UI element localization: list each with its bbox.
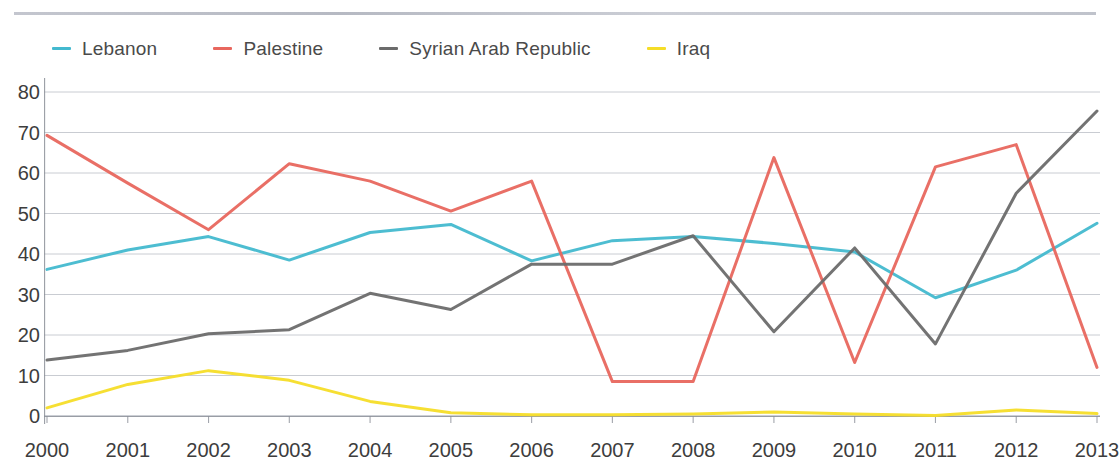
chart-svg [44, 78, 1100, 430]
x-axis-tick-label-2000: 2000 [25, 440, 70, 460]
x-axis-tick-label-2005: 2005 [429, 440, 474, 460]
series-line-syrian-arab-republic[interactable] [47, 111, 1097, 360]
chart-legend: LebanonPalestineSyrian Arab RepublicIraq [52, 36, 766, 60]
y-axis-tick-label-50: 50 [2, 204, 40, 224]
y-axis-tick-label-60: 60 [2, 163, 40, 183]
y-axis-tick-label-20: 20 [2, 325, 40, 345]
y-axis-tick-label-70: 70 [2, 123, 40, 143]
x-axis-tick-label-2001: 2001 [106, 440, 151, 460]
x-axis-tick-label-2006: 2006 [509, 440, 554, 460]
x-axis-labels: 2000200120022003200420052006200720082009… [44, 430, 1100, 464]
x-axis-tick-label-2013: 2013 [1075, 440, 1119, 460]
legend-item-lebanon[interactable]: Lebanon [52, 39, 157, 58]
x-axis-tick-label-2009: 2009 [752, 440, 797, 460]
legend-item-iraq[interactable]: Iraq [647, 39, 711, 58]
legend-label: Palestine [243, 39, 323, 58]
legend-swatch-lebanon [52, 47, 71, 50]
legend-label: Syrian Arab Republic [409, 39, 590, 58]
y-axis-tick-label-10: 10 [2, 366, 40, 386]
header-divider [14, 12, 1096, 15]
series-line-palestine[interactable] [47, 135, 1097, 381]
legend-swatch-syrian-arab-republic [379, 47, 398, 50]
legend-swatch-iraq [647, 47, 666, 50]
legend-item-palestine[interactable]: Palestine [213, 39, 323, 58]
x-axis-tick-label-2002: 2002 [186, 440, 231, 460]
y-axis-tick-label-0: 0 [2, 406, 40, 426]
legend-item-syrian-arab-republic[interactable]: Syrian Arab Republic [379, 39, 590, 58]
legend-label: Lebanon [82, 39, 157, 58]
x-axis-tick-label-2004: 2004 [348, 440, 393, 460]
x-axis-tick-label-2010: 2010 [832, 440, 877, 460]
y-axis-labels: 80706050403020100 [0, 78, 40, 428]
x-axis-tick-label-2003: 2003 [267, 440, 312, 460]
y-axis-tick-label-40: 40 [2, 244, 40, 264]
series-line-lebanon[interactable] [47, 223, 1097, 298]
y-axis-tick-label-80: 80 [2, 82, 40, 102]
x-axis-tick-label-2007: 2007 [590, 440, 635, 460]
legend-swatch-palestine [213, 47, 232, 50]
y-axis-tick-label-30: 30 [2, 285, 40, 305]
x-axis-tick-label-2012: 2012 [994, 440, 1039, 460]
legend-label: Iraq [677, 39, 711, 58]
x-axis-tick-label-2011: 2011 [914, 440, 957, 460]
x-axis-tick-label-2008: 2008 [671, 440, 716, 460]
series-line-iraq[interactable] [47, 371, 1097, 416]
plot-area-wrapper: 80706050403020100 2000200120022003200420… [0, 78, 1110, 464]
